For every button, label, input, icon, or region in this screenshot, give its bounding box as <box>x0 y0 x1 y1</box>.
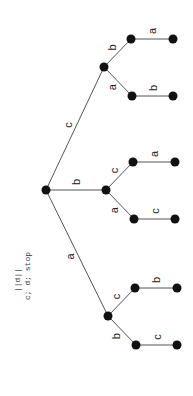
tree-node <box>130 215 139 224</box>
edge-label-c: c <box>151 334 163 340</box>
tree-node <box>104 312 113 321</box>
edge-c-cb <box>104 39 131 67</box>
process-tree-diagram: cbaabbcaacacbbc ||d|| c; d; stop <box>0 0 193 396</box>
edge-label-c: c <box>149 208 161 214</box>
edge-a-ac <box>108 288 135 316</box>
edge-label-a: a <box>146 27 158 34</box>
caption-line-2: c; d; stop <box>23 252 32 300</box>
edge-b-bc <box>106 162 133 190</box>
edge-label-b: b <box>106 44 118 50</box>
tree-node <box>128 92 137 101</box>
edge-label-b: b <box>147 85 159 91</box>
caption-line-1: ||d|| <box>13 268 22 292</box>
tree-node <box>100 63 109 72</box>
edge-label-a: a <box>148 150 160 157</box>
edge-r-a <box>46 190 108 316</box>
edge-label-a: a <box>106 83 118 90</box>
edge-label-b: b <box>70 179 82 185</box>
edge-label-a: a <box>64 253 76 260</box>
tree-node <box>171 158 180 167</box>
root-node <box>42 186 51 195</box>
edge-a-ab <box>108 316 136 345</box>
tree-node <box>169 92 178 101</box>
tree-nodes <box>42 35 182 350</box>
edge-b-ba <box>106 190 134 219</box>
tree-node <box>171 215 180 224</box>
edge-r-c <box>46 67 104 190</box>
tree-node <box>173 284 182 293</box>
tree-node <box>127 35 136 44</box>
tree-node <box>131 284 140 293</box>
edge-label-c: c <box>108 167 120 173</box>
tree-node <box>132 341 141 350</box>
edge-label-a: a <box>108 206 120 213</box>
edge-label-b: b <box>110 333 122 339</box>
tree-node <box>129 158 138 167</box>
caption: ||d|| c; d; stop <box>13 252 32 300</box>
edge-label-c: c <box>110 293 122 299</box>
tree-node <box>102 186 111 195</box>
edge-c-ca <box>104 67 132 96</box>
tree-node <box>169 35 178 44</box>
edge-label-c: c <box>62 122 74 128</box>
tree-node <box>173 341 182 350</box>
edge-label-b: b <box>150 277 162 283</box>
